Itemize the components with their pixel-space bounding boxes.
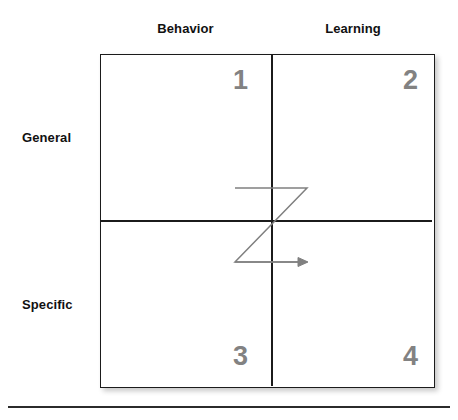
quadrant-matrix-figure: Behavior Learning General Specific 1 2 3…	[0, 0, 458, 420]
quadrant-matrix-box: 1 2 3 4	[100, 54, 435, 388]
quadrant-number-1: 1	[233, 67, 248, 94]
column-header-behavior: Behavior	[100, 21, 271, 36]
row-label-specific: Specific	[22, 297, 73, 312]
row-label-general: General	[22, 130, 71, 145]
quadrant-number-3: 3	[233, 343, 248, 370]
bottom-divider-rule	[8, 406, 450, 408]
quadrant-number-4: 4	[403, 343, 418, 370]
quadrant-number-2: 2	[403, 67, 418, 94]
horizontal-divider-line	[101, 220, 432, 222]
column-header-learning: Learning	[271, 21, 435, 36]
